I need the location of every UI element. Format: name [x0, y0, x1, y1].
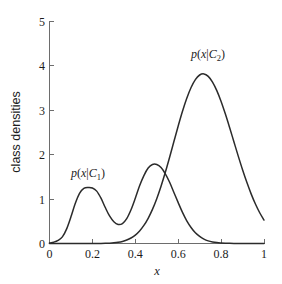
- annotation-2-close: ): [221, 47, 225, 61]
- annotation-1-p: p: [70, 166, 77, 180]
- x-tick-label-1: 0.2: [85, 247, 100, 261]
- x-axis-title: x: [153, 264, 160, 278]
- annotation-1-close: ): [101, 166, 105, 180]
- chart-svg: 0 1 2 3 4 5 0 0.2 0.4 0.6 0.8 1 x class …: [0, 0, 282, 284]
- x-tick-label-0: 0: [47, 247, 53, 261]
- y-tick-label-2: 2: [39, 148, 45, 162]
- class-densities-chart: 0 1 2 3 4 5 0 0.2 0.4 0.6 0.8 1 x class …: [0, 0, 282, 284]
- y-tick-label-1: 1: [39, 193, 45, 207]
- y-axis-title: class densities: [9, 91, 23, 172]
- y-tick-label-4: 4: [39, 59, 45, 73]
- x-tick-label-5: 1: [261, 247, 267, 261]
- y-tick-label-5: 5: [39, 15, 45, 29]
- y-tick-label-3: 3: [39, 104, 45, 118]
- annotation-2-p: p: [190, 47, 197, 61]
- x-tick-label-3: 0.6: [171, 247, 186, 261]
- y-tick-label-0: 0: [39, 237, 45, 251]
- x-tick-label-4: 0.8: [214, 247, 229, 261]
- x-tick-label-2: 0.4: [128, 247, 143, 261]
